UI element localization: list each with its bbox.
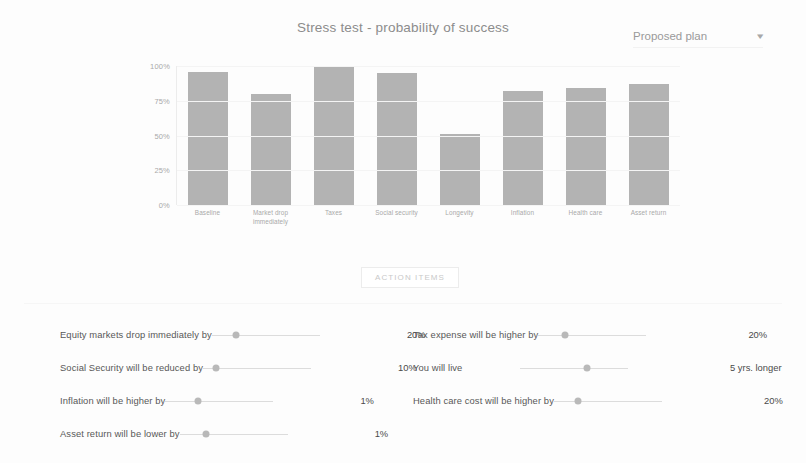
stress-test-page: Stress test - probability of success Pro… xyxy=(0,0,806,463)
slider-label: Social Security will be reduced by xyxy=(60,362,203,373)
slider-track-wrapper xyxy=(520,361,720,375)
slider-track[interactable] xyxy=(520,361,628,375)
slider-track-wrapper xyxy=(538,328,738,342)
action-items-button[interactable]: ACTION ITEMS xyxy=(361,267,459,288)
slider-track-wrapper xyxy=(165,394,350,408)
slider-thumb[interactable] xyxy=(574,397,581,404)
section-divider xyxy=(24,303,782,304)
chart-bar[interactable] xyxy=(251,94,291,205)
slider-row: Tax expense will be higher by20% xyxy=(413,318,792,351)
slider-row: Inflation will be higher by1% xyxy=(60,384,389,417)
slider-row: Asset return will be lower by1% xyxy=(60,417,389,450)
slider-label: Tax expense will be higher by xyxy=(413,329,538,340)
sliders-left-column: Equity markets drop immediately by20%Soc… xyxy=(0,318,403,450)
chart-y-axis: 100%75%50%25%0% xyxy=(140,58,174,205)
slider-track-wrapper xyxy=(554,394,754,408)
slider-label: You will live xyxy=(413,362,520,373)
slider-track[interactable] xyxy=(554,394,662,408)
x-axis-tick-label: Social security xyxy=(368,208,426,227)
y-axis-tick-label: 50% xyxy=(154,131,170,140)
slider-thumb[interactable] xyxy=(213,364,220,371)
slider-track[interactable] xyxy=(165,394,273,408)
slider-track[interactable] xyxy=(180,427,288,441)
chart-gridline xyxy=(177,205,680,206)
slider-row: Equity markets drop immediately by20% xyxy=(60,318,389,351)
y-axis-tick-label: 75% xyxy=(154,96,170,105)
slider-track[interactable] xyxy=(212,328,320,342)
assumption-sliders: Equity markets drop immediately by20%Soc… xyxy=(0,318,806,450)
slider-row: Social Security will be reduced by10% xyxy=(60,351,389,384)
stress-test-bar-chart: 100%75%50%25%0% BaselineMarket drop imme… xyxy=(140,58,680,238)
slider-track-wrapper xyxy=(180,427,365,441)
chart-x-axis-labels: BaselineMarket drop immediatelyTaxesSoci… xyxy=(176,208,680,227)
x-axis-tick-label: Health care xyxy=(557,208,615,227)
x-axis-tick-label: Inflation xyxy=(494,208,552,227)
chart-bar[interactable] xyxy=(503,91,543,205)
chart-gridline xyxy=(177,170,680,171)
slider-label: Asset return will be lower by xyxy=(60,428,180,439)
x-axis-tick-label: Taxes xyxy=(305,208,363,227)
chart-plot-area xyxy=(176,66,680,205)
slider-value: 5 yrs. longer xyxy=(730,362,792,373)
chart-gridline xyxy=(177,66,680,67)
plan-select-dropdown[interactable]: Proposed plan ▾ xyxy=(633,26,763,46)
slider-track[interactable] xyxy=(203,361,311,375)
slider-value: 20% xyxy=(764,395,806,406)
slider-label: Health care cost will be higher by xyxy=(413,395,554,406)
chart-bar[interactable] xyxy=(629,84,669,205)
slider-thumb[interactable] xyxy=(202,430,209,437)
x-axis-tick-label: Longevity xyxy=(431,208,489,227)
slider-thumb[interactable] xyxy=(562,331,569,338)
slider-thumb[interactable] xyxy=(194,397,201,404)
chart-bar[interactable] xyxy=(377,73,417,205)
slider-row: You will live5 yrs. longer xyxy=(413,351,792,384)
slider-label: Inflation will be higher by xyxy=(60,395,165,406)
y-axis-tick-label: 0% xyxy=(159,201,170,210)
x-axis-tick-label: Asset return xyxy=(620,208,678,227)
slider-thumb[interactable] xyxy=(583,364,590,371)
x-axis-tick-label: Market drop immediately xyxy=(242,208,300,227)
y-axis-tick-label: 100% xyxy=(150,62,170,71)
plan-select-value: Proposed plan xyxy=(633,30,707,42)
sliders-right-column: Tax expense will be higher by20%You will… xyxy=(403,318,806,450)
chart-bar[interactable] xyxy=(566,88,606,205)
slider-track-wrapper xyxy=(203,361,388,375)
slider-thumb[interactable] xyxy=(232,331,239,338)
chart-bar[interactable] xyxy=(188,72,228,205)
slider-value: 20% xyxy=(748,329,806,340)
chevron-down-icon: ▾ xyxy=(757,32,764,41)
chart-gridline xyxy=(177,136,680,137)
chart-gridline xyxy=(177,101,680,102)
x-axis-tick-label: Baseline xyxy=(179,208,237,227)
plan-select-underline xyxy=(633,47,763,48)
slider-track-wrapper xyxy=(212,328,397,342)
slider-track[interactable] xyxy=(538,328,646,342)
slider-label: Equity markets drop immediately by xyxy=(60,329,212,340)
slider-row: Health care cost will be higher by20% xyxy=(413,384,792,417)
y-axis-tick-label: 25% xyxy=(154,166,170,175)
